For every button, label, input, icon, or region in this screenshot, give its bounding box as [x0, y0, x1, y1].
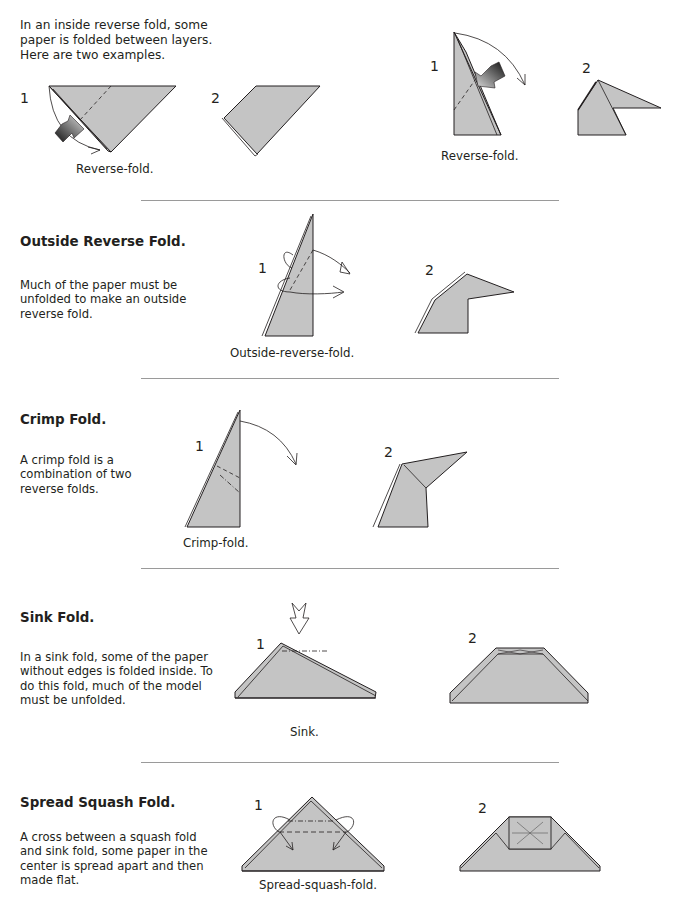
section-divider	[141, 568, 559, 569]
section-divider	[141, 762, 559, 763]
sink-fold-step2-diagram	[0, 580, 679, 760]
reverse-fold-example-b-step2-diagram	[0, 0, 679, 200]
spread-squash-fold-step2-diagram	[0, 770, 679, 908]
section-divider	[141, 378, 559, 379]
crimp-fold-step2-diagram	[0, 380, 679, 580]
outside-reverse-fold-step2-diagram	[0, 200, 679, 380]
